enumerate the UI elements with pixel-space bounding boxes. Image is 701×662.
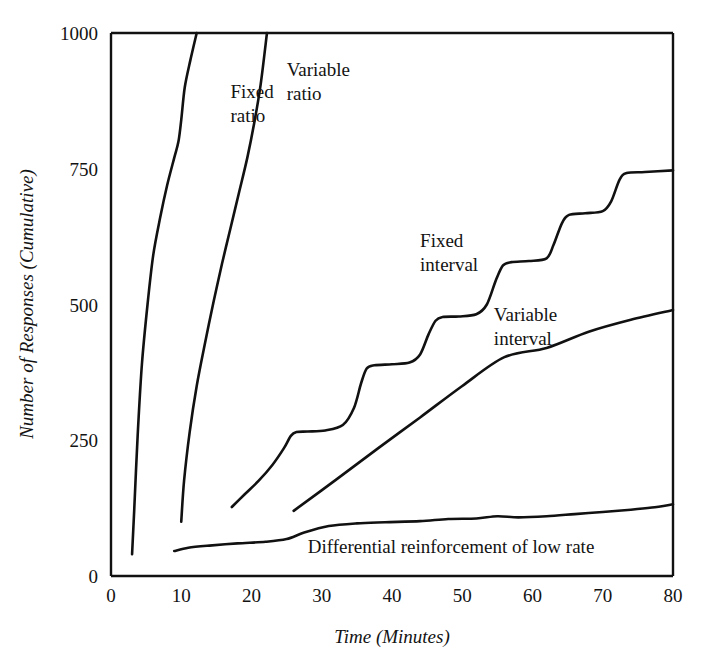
series-line-fixed-interval bbox=[232, 170, 673, 507]
series-label-variable: Variableinterval bbox=[494, 304, 557, 349]
series-label-line: Differential reinforcement of low rate bbox=[308, 536, 595, 557]
axis-lines bbox=[111, 33, 673, 576]
series-annotations: FixedratioVariableratioFixedintervalVari… bbox=[230, 59, 594, 557]
cumulative-response-chart: 02505007501000 01020304050607080 Fixedra… bbox=[0, 0, 701, 662]
x-axis-title: Time (Minutes) bbox=[334, 626, 450, 648]
x-tick-label: 50 bbox=[453, 585, 472, 606]
chart-canvas: 02505007501000 01020304050607080 Fixedra… bbox=[0, 0, 701, 662]
y-axis-title: Number of Responses (Cumulative) bbox=[16, 169, 38, 440]
y-tick-label: 1000 bbox=[60, 23, 98, 44]
series-label-line: Variable bbox=[287, 59, 350, 80]
series-label-differential-reinforcement-of-low-rate: Differential reinforcement of low rate bbox=[308, 536, 595, 557]
series-label-line: Fixed bbox=[420, 230, 464, 251]
x-tick-label: 10 bbox=[172, 585, 191, 606]
y-tick-label: 750 bbox=[70, 159, 99, 180]
x-tick-label: 80 bbox=[664, 585, 683, 606]
series-line-fixed-ratio bbox=[132, 33, 197, 554]
series-label-line: interval bbox=[420, 254, 478, 275]
x-tick-label: 70 bbox=[593, 585, 612, 606]
y-tick-label: 250 bbox=[70, 430, 99, 451]
x-tick-label: 20 bbox=[242, 585, 261, 606]
series-label-variable: Variableratio bbox=[287, 59, 350, 104]
series-lines bbox=[132, 33, 673, 554]
y-tick-label: 500 bbox=[70, 295, 99, 316]
y-tick-label: 0 bbox=[89, 566, 99, 587]
series-label-fixed: Fixedratio bbox=[230, 81, 274, 126]
series-label-line: ratio bbox=[287, 83, 322, 104]
x-tick-labels: 01020304050607080 bbox=[106, 585, 682, 606]
x-tick-label: 0 bbox=[106, 585, 116, 606]
series-label-line: Variable bbox=[494, 304, 557, 325]
series-line-variable-interval bbox=[294, 310, 673, 511]
x-tick-label: 40 bbox=[383, 585, 402, 606]
y-tick-labels: 02505007501000 bbox=[60, 23, 98, 587]
series-label-line: ratio bbox=[230, 105, 265, 126]
series-label-line: Fixed bbox=[230, 81, 274, 102]
x-tick-label: 60 bbox=[523, 585, 542, 606]
series-label-line: interval bbox=[494, 328, 552, 349]
series-label-fixed: Fixedinterval bbox=[420, 230, 478, 275]
x-tick-label: 30 bbox=[312, 585, 331, 606]
